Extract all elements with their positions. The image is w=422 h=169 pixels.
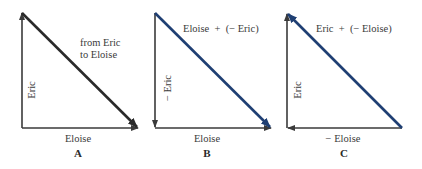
vertical-label: Eric	[292, 81, 303, 99]
panel-letter-b: B	[203, 147, 211, 159]
hypotenuse-label: Eric + (− Eloise)	[316, 23, 392, 35]
vertical-label: Eric	[26, 81, 37, 99]
vector-diagram: from Eric to Eloise Eric Eloise A Eloise…	[0, 0, 422, 169]
hypotenuse-label-line2: to Eloise	[80, 49, 117, 60]
hypotenuse-label-line1: from Eric	[80, 37, 121, 48]
panel-letter-c: C	[340, 147, 348, 159]
resultant-vector-arrow	[22, 13, 137, 127]
horizontal-label: Eloise	[65, 133, 92, 144]
horizontal-label: Eloise	[194, 133, 221, 144]
vertical-label: − Eric	[162, 75, 173, 101]
hypotenuse-label: Eloise + (− Eric)	[183, 23, 259, 35]
horizontal-label: − Eloise	[326, 133, 361, 144]
panel-b: Eloise + (− Eric) − Eric Eloise B	[155, 13, 271, 159]
panel-a: from Eric to Eloise Eric Eloise A	[22, 13, 138, 159]
panel-letter-a: A	[74, 147, 82, 159]
panel-c: Eric + (− Eloise) Eric − Eloise C	[287, 14, 402, 159]
